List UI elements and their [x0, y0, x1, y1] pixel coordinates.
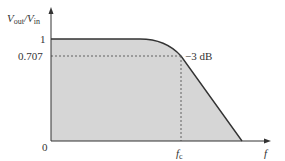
annotation-3db: −3 dB: [185, 51, 212, 62]
y-label-sub-in: in: [34, 17, 40, 26]
tick-label-fc: fc: [176, 148, 183, 161]
tick-label-0: 0: [42, 142, 48, 153]
fc-sub: c: [179, 152, 183, 161]
y-label-v: V: [7, 12, 14, 24]
x-axis-arrow-icon: [264, 139, 271, 144]
x-axis-label: f: [264, 148, 267, 159]
y-label-vin: /V: [24, 12, 34, 24]
y-label-sub-out: out: [14, 17, 24, 26]
tick-label-1: 1: [40, 34, 46, 45]
y-axis-arrow-icon: [49, 7, 54, 14]
y-axis-label: Vout/Vin: [7, 13, 40, 26]
filled-area: [51, 39, 242, 141]
tick-label-0707: 0.707: [18, 51, 43, 62]
response-plot: [0, 0, 285, 161]
